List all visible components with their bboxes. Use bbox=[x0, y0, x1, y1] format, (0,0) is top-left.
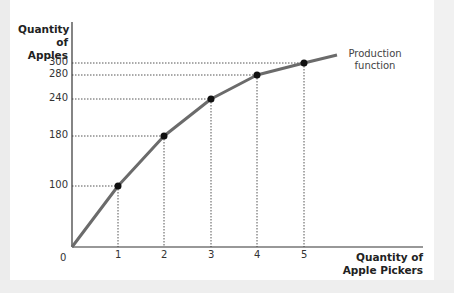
y-tick-300: 300 bbox=[44, 56, 68, 67]
y-tick-180: 180 bbox=[44, 129, 68, 140]
x-tick-2: 2 bbox=[161, 249, 167, 260]
origin-label: 0 bbox=[60, 252, 66, 263]
curve-label: Production function bbox=[340, 48, 410, 72]
x-tick-5: 5 bbox=[301, 249, 307, 260]
y-tick-100: 100 bbox=[44, 179, 68, 190]
production-function-chart bbox=[0, 0, 454, 293]
x-axis-title-line1: Quantity of bbox=[333, 251, 423, 264]
production-curve bbox=[72, 55, 337, 247]
x-tick-1: 1 bbox=[115, 249, 121, 260]
y-axis-title-line1: Quantity bbox=[18, 23, 68, 36]
curve-label-line1: Production bbox=[340, 48, 410, 60]
x-axis-title: Quantity of Apple Pickers bbox=[333, 251, 423, 277]
x-tick-4: 4 bbox=[254, 249, 260, 260]
y-tick-240: 240 bbox=[44, 92, 68, 103]
dotted-guides bbox=[72, 63, 304, 247]
curve-label-line2: function bbox=[340, 60, 410, 72]
y-tick-280: 280 bbox=[44, 68, 68, 79]
x-axis-title-line2: Apple Pickers bbox=[333, 264, 423, 277]
x-tick-3: 3 bbox=[208, 249, 214, 260]
